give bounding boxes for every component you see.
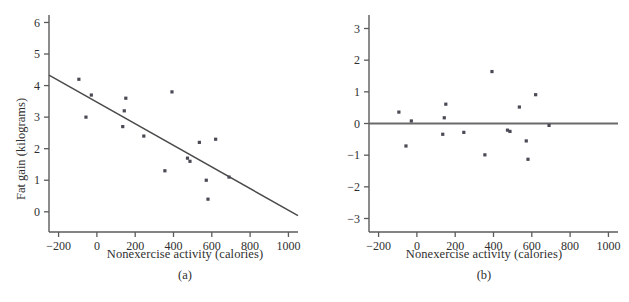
data-point: [90, 93, 93, 96]
regression-line: [49, 75, 298, 215]
data-point: [547, 124, 550, 127]
y-tick-label: 4: [34, 79, 40, 93]
data-point: [124, 97, 127, 100]
data-point: [214, 138, 217, 141]
data-point: [84, 116, 87, 119]
data-point: [186, 157, 189, 160]
data-point: [206, 198, 209, 201]
data-point: [121, 125, 124, 128]
data-point: [198, 141, 201, 144]
y-tick-label: 0: [354, 117, 360, 131]
panel-a-axes: [49, 15, 298, 232]
panel-b-residual-plot: 3210−1−2−3 −20002004006008001000 Residua…: [319, 0, 629, 302]
y-tick-label: 2: [34, 142, 40, 156]
y-tick-label: 1: [34, 173, 40, 187]
data-point: [443, 116, 446, 119]
y-tick-label: 2: [354, 53, 360, 67]
data-point: [188, 160, 191, 163]
data-point: [526, 158, 529, 161]
y-tick-label: 3: [34, 110, 40, 124]
data-point: [142, 134, 145, 137]
panel-a-y-ticks: 0123456: [34, 16, 49, 219]
y-tick-label: 0: [34, 205, 40, 219]
data-point: [490, 70, 493, 73]
y-tick-label: −1: [347, 148, 360, 162]
y-tick-label: −3: [347, 212, 360, 226]
data-point: [444, 103, 447, 106]
panel-b-x-axis-title: Nonexercise activity (calories): [359, 247, 609, 262]
data-point: [123, 109, 126, 112]
data-point: [205, 179, 208, 182]
panel-b-data-points: [397, 70, 550, 161]
panel-a-label: (a): [60, 268, 310, 283]
data-point: [404, 144, 407, 147]
data-point: [462, 131, 465, 134]
y-tick-label: −2: [347, 180, 360, 194]
data-point: [525, 139, 528, 142]
panel-a-x-axis-title: Nonexercise activity (calories): [60, 247, 310, 262]
panel-a-y-axis-title: Fat gain (kilograms): [14, 98, 29, 200]
figure-scatterplot-and-residual-plot: 0123456 −20002004006008001000 Fat gain (…: [0, 0, 629, 302]
data-point: [227, 175, 230, 178]
panel-a-data-points: [77, 78, 230, 201]
panel-b-label: (b): [359, 268, 609, 283]
data-point: [441, 133, 444, 136]
y-tick-label: 5: [34, 47, 40, 61]
y-tick-label: 6: [34, 16, 40, 30]
data-point: [518, 105, 521, 108]
data-point: [397, 111, 400, 114]
panel-a-scatterplot: 0123456 −20002004006008001000 Fat gain (…: [0, 0, 310, 302]
y-tick-label: 3: [354, 22, 360, 36]
y-tick-label: 1: [354, 85, 360, 99]
data-point: [77, 78, 80, 81]
panel-b-y-ticks: 3210−1−2−3: [347, 22, 369, 226]
data-point: [508, 130, 511, 133]
data-point: [170, 90, 173, 93]
data-point: [483, 153, 486, 156]
data-point: [163, 169, 166, 172]
data-point: [534, 93, 537, 96]
data-point: [410, 119, 413, 122]
